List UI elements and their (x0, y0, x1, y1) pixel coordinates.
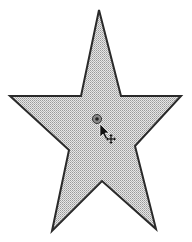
drawing-canvas[interactable] (0, 0, 192, 242)
rotation-center-handle-icon[interactable] (93, 115, 102, 124)
